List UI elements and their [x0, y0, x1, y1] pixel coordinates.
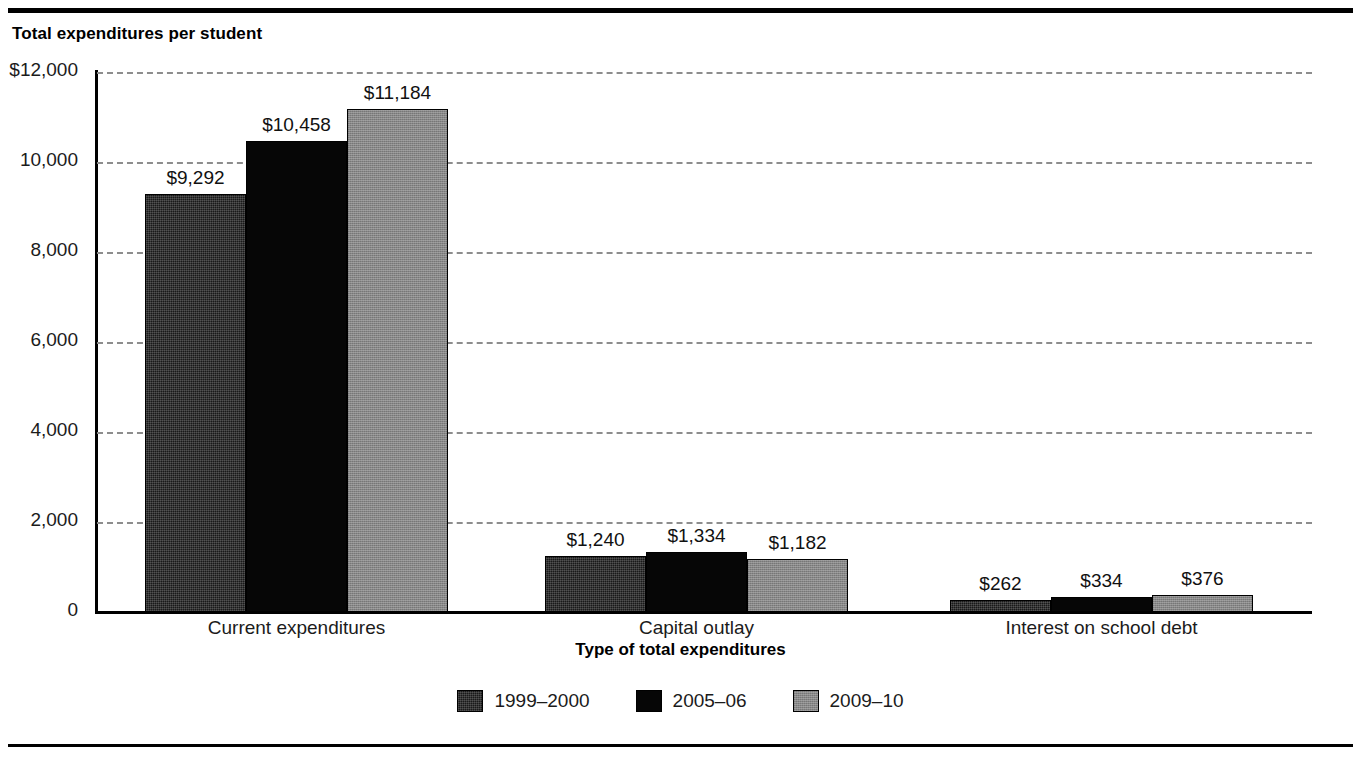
- y-axis-tick-label: 2,000: [30, 509, 78, 531]
- y-axis-tick-label: $12,000: [9, 59, 78, 81]
- gridline: [97, 72, 1312, 74]
- legend-label: 2009–10: [830, 690, 904, 712]
- bar: [246, 141, 347, 612]
- bar-value-label: $10,458: [226, 114, 367, 136]
- chart-title: Total expenditures per student: [12, 24, 262, 44]
- bar: [545, 556, 646, 612]
- legend-swatch-icon: [636, 690, 662, 712]
- bottom-rule: [8, 744, 1353, 747]
- bar: [747, 559, 848, 612]
- legend-item[interactable]: 2009–10: [793, 690, 904, 712]
- chart-page: Total expenditures per student $12,00010…: [0, 0, 1361, 757]
- top-rule: [8, 8, 1353, 13]
- legend-label: 2005–06: [673, 690, 747, 712]
- bar-value-label: $11,184: [327, 82, 468, 104]
- category-label: Current expenditures: [85, 617, 508, 639]
- legend-item[interactable]: 1999–2000: [457, 690, 589, 712]
- legend-item[interactable]: 2005–06: [636, 690, 747, 712]
- legend-label: 1999–2000: [494, 690, 589, 712]
- bar-value-label: $9,292: [125, 167, 266, 189]
- category-label: Interest on school debt: [890, 617, 1313, 639]
- legend-swatch-icon: [457, 690, 483, 712]
- y-axis-tick-label: 6,000: [30, 329, 78, 351]
- x-axis-title: Type of total expenditures: [0, 640, 1361, 660]
- bar: [1152, 595, 1253, 612]
- y-axis-tick-label: 10,000: [20, 149, 78, 171]
- bar: [145, 194, 246, 612]
- chart-legend: 1999–20002005–062009–10: [0, 690, 1361, 712]
- bar: [347, 109, 448, 612]
- bar-value-label: $1,182: [727, 532, 868, 554]
- bar-value-label: $376: [1132, 568, 1273, 590]
- bar: [1051, 597, 1152, 612]
- y-axis-tick-label: 0: [67, 599, 78, 621]
- category-label: Capital outlay: [485, 617, 908, 639]
- y-axis-tick-label: 4,000: [30, 419, 78, 441]
- y-axis-tick-label: 8,000: [30, 239, 78, 261]
- bar: [646, 552, 747, 612]
- legend-swatch-icon: [793, 690, 819, 712]
- bar: [950, 600, 1051, 612]
